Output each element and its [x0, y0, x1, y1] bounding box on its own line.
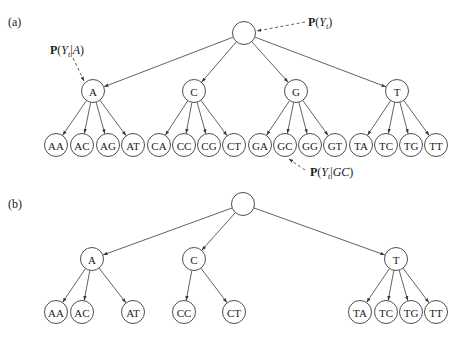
leaf-node-TC-label: TC: [379, 307, 393, 319]
leaf-node-AT-label: AT: [126, 307, 140, 319]
edge-G-to-GC: [287, 102, 293, 133]
edge-T-to-TG: [400, 102, 408, 133]
leaf-node-TT-label: TT: [429, 140, 443, 152]
node-T-label: T: [393, 254, 400, 266]
leaf-node-CT: CT: [223, 134, 246, 157]
edge-root-to-A: [103, 208, 232, 255]
edge-A-to-AA: [63, 100, 87, 135]
edge-T-to-TC: [388, 102, 394, 133]
leaf-node-CA: CA: [148, 134, 171, 157]
leaf-node-AT: AT: [122, 134, 145, 157]
context-tree-diagram: AAAACAGATCCACCCGCTGGAGCGGGTTTATCTGTTAAAA…: [0, 0, 461, 339]
leaf-node-TT: TT: [425, 301, 448, 324]
edge-T-to-TC: [388, 270, 394, 300]
leaf-node-GG-label: GG: [302, 140, 318, 152]
edge-T-to-TA: [368, 101, 391, 135]
leaf-node-CC: CC: [173, 301, 196, 324]
leaf-node-AC: AC: [71, 134, 94, 157]
leaf-node-AT: AT: [122, 301, 145, 324]
probability-annotation-A: P(Yt|A): [50, 43, 84, 59]
edge-G-to-GA: [267, 101, 290, 135]
leaf-node-AC-label: AC: [74, 307, 89, 319]
leaf-node-AG: AG: [97, 134, 120, 157]
root-node: [233, 22, 256, 45]
annotation-arrow-A: [73, 58, 84, 81]
edge-root-to-T: [254, 208, 385, 255]
node-T-label: T: [394, 86, 401, 98]
leaf-node-TG-label: TG: [404, 140, 419, 152]
edge-A-to-AC: [84, 102, 90, 133]
leaf-node-AA: AA: [45, 301, 68, 324]
leaf-node-TT: TT: [425, 134, 448, 157]
leaf-node-GG: GG: [299, 134, 322, 157]
node-A-label: A: [88, 254, 96, 266]
node-A-label: A: [89, 86, 97, 98]
edge-A-to-AC: [84, 270, 90, 300]
leaf-node-CT-label: CT: [227, 307, 241, 319]
edge-root-to-C: [202, 42, 237, 82]
edge-A-to-AG: [96, 102, 105, 133]
node-G-label: G: [292, 86, 300, 98]
leaf-node-GC: GC: [274, 134, 297, 157]
node-A: A: [81, 248, 104, 271]
leaf-node-GT: GT: [324, 134, 347, 157]
leaf-node-TC-label: TC: [379, 140, 393, 152]
leaf-node-GT-label: GT: [328, 140, 343, 152]
leaf-node-AC-label: AC: [74, 140, 89, 152]
leaf-node-TC: TC: [375, 301, 398, 324]
edge-G-to-GG: [299, 102, 307, 133]
leaf-node-AA: AA: [45, 134, 68, 157]
leaf-node-TG-label: TG: [404, 307, 419, 319]
edge-A-to-AT: [99, 268, 126, 302]
probability-annotation-root: P(Yt): [308, 15, 332, 31]
leaf-node-CC-label: CC: [177, 140, 192, 152]
node-T: T: [386, 80, 409, 103]
leaf-node-CC-label: CC: [177, 307, 192, 319]
edge-A-to-AA: [63, 269, 86, 303]
leaf-node-TA-label: TA: [354, 140, 368, 152]
leaf-node-TC: TC: [375, 134, 398, 157]
leaf-node-AG-label: AG: [100, 140, 116, 152]
leaf-node-GA-label: GA: [252, 140, 268, 152]
leaf-node-TG: TG: [400, 134, 423, 157]
leaf-node-AT-label: AT: [126, 140, 140, 152]
leaf-node-AC: AC: [71, 301, 94, 324]
edge-C-to-CT: [201, 268, 227, 302]
node-C-label: C: [190, 254, 197, 266]
leaf-node-CA-label: CA: [151, 140, 166, 152]
root-node: [232, 193, 255, 216]
edge-C-to-CC: [186, 102, 192, 133]
node-C: C: [183, 80, 206, 103]
edge-T-to-TG: [399, 270, 408, 300]
leaf-node-CC: CC: [173, 134, 196, 157]
panel-label: (b): [8, 197, 22, 211]
edge-root-to-C: [202, 213, 235, 250]
annotation-arrow-root: [257, 22, 305, 31]
leaf-node-AA-label: AA: [48, 140, 64, 152]
leaf-node-TA: TA: [350, 134, 373, 157]
annotation-arrow-GC: [289, 159, 305, 170]
node-C-label: C: [190, 86, 197, 98]
edge-C-to-CC: [186, 270, 192, 300]
edge-C-to-CG: [197, 102, 206, 133]
leaf-node-CT: CT: [223, 301, 246, 324]
leaf-node-TG: TG: [400, 301, 423, 324]
leaf-node-TA-label: TA: [353, 307, 367, 319]
leaf-node-CG-label: CG: [201, 140, 216, 152]
node-C: C: [183, 248, 206, 271]
node-A: A: [82, 80, 105, 103]
leaf-node-TT-label: TT: [429, 307, 443, 319]
edge-root-to-T: [255, 37, 386, 87]
panel-label: (a): [8, 15, 21, 29]
leaf-node-AA-label: AA: [48, 307, 64, 319]
leaf-node-CT-label: CT: [227, 140, 241, 152]
root-node-circle: [232, 193, 255, 216]
node-G: G: [285, 80, 308, 103]
leaf-node-CG: CG: [198, 134, 221, 157]
node-T: T: [385, 248, 408, 271]
edge-C-to-CA: [166, 101, 188, 135]
edge-root-to-A: [104, 37, 233, 87]
edge-T-to-TA: [367, 269, 390, 303]
leaf-node-TA: TA: [349, 301, 372, 324]
probability-annotation-GC: P(Yt|GC): [310, 165, 353, 181]
